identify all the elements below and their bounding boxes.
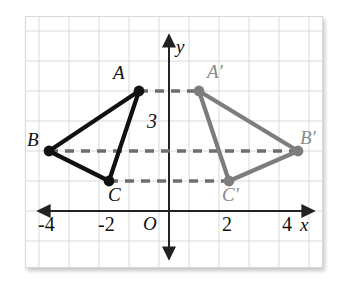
label-vertex-a-prime: A′: [207, 62, 223, 81]
y-axis-tick-label-3: 3: [147, 111, 157, 131]
label-vertex-c-prime: C′: [222, 185, 239, 204]
label-vertex-a: A: [113, 63, 125, 82]
x-axis-tick-label-neg2: -2: [98, 214, 115, 234]
grid-lines: [26, 17, 322, 267]
coordinate-plane-figure: A B C A′ B′ C′ 3 O -4 -2 2 4 x y: [25, 16, 323, 268]
x-axis-tick-label-2: 2: [222, 214, 232, 234]
vertex-b-point: [44, 146, 55, 157]
x-axis-tick-label-4: 4: [282, 214, 292, 234]
coordinate-plane-svg: [26, 17, 322, 267]
x-axis-label: x: [300, 215, 308, 234]
label-vertex-c: C: [108, 185, 121, 204]
vertex-a-point: [134, 86, 145, 97]
label-vertex-b-prime: B′: [300, 128, 316, 147]
label-vertex-b: B: [27, 130, 39, 149]
figure-stage: A B C A′ B′ C′ 3 O -4 -2 2 4 x y: [0, 0, 345, 286]
y-axis-label: y: [176, 37, 184, 56]
x-axis-tick-label-neg4: -4: [38, 214, 55, 234]
vertex-a-prime-point: [194, 86, 205, 97]
origin-label: O: [143, 214, 157, 233]
